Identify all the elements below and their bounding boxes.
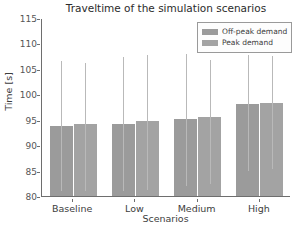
y-axis-tick-label: 80 — [3, 192, 37, 202]
x-axis-tick-mark — [259, 199, 260, 202]
y-axis-tick-label: 110 — [3, 39, 37, 49]
legend-item: Peak demand — [202, 38, 287, 48]
y-axis-tick-label: 100 — [3, 90, 37, 100]
y-axis-tick-mark — [37, 19, 40, 20]
error-bar — [186, 54, 187, 186]
x-axis-tick-mark — [134, 199, 135, 202]
y-axis-tick-mark — [37, 44, 40, 45]
chart-title: Traveltime of the simulation scenarios — [40, 2, 292, 14]
error-bar — [272, 56, 273, 169]
legend-label: Peak demand — [222, 39, 273, 47]
y-axis-tick-mark — [37, 146, 40, 147]
chart-legend: Off-peak demand Peak demand — [197, 22, 292, 53]
legend-item: Off-peak demand — [202, 27, 287, 37]
error-bar — [210, 60, 211, 184]
error-bar — [61, 61, 62, 191]
error-bar — [248, 55, 249, 171]
chart-figure: Traveltime of the simulation scenarios T… — [0, 0, 296, 230]
legend-swatch-peak-demand — [202, 40, 218, 46]
y-axis-tick-label: 105 — [3, 65, 37, 75]
x-axis-tick-mark — [197, 199, 198, 202]
y-axis-tick-label: 115 — [3, 14, 37, 24]
x-axis-label: Scenarios — [41, 213, 290, 224]
y-axis-tick-mark — [37, 121, 40, 122]
error-bar — [123, 57, 124, 191]
y-axis-tick-mark — [37, 172, 40, 173]
legend-label: Off-peak demand — [222, 28, 287, 36]
y-axis-tick-mark — [37, 197, 40, 198]
y-axis-tick-label: 85 — [3, 167, 37, 177]
legend-swatch-off-peak-demand — [202, 29, 218, 35]
y-axis-tick-labels: 80859095100105110115 — [0, 19, 37, 197]
error-bar — [147, 55, 148, 191]
y-axis-tick-label: 90 — [3, 141, 37, 151]
y-axis-tick-label: 95 — [3, 116, 37, 126]
y-axis-tick-mark — [37, 95, 40, 96]
x-axis-tick-mark — [72, 199, 73, 202]
error-bar — [85, 63, 86, 191]
y-axis-tick-mark — [37, 70, 40, 71]
